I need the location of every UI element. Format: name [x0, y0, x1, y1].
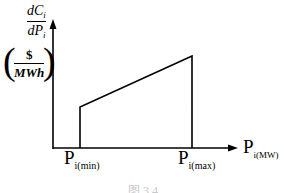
x-tick-pmax: Pi(max): [178, 147, 215, 169]
figure-caption: 图 3.4: [128, 181, 158, 193]
x-tick-pmin: Pi(min): [64, 147, 100, 169]
x-axis-arrow-icon: [228, 145, 238, 152]
incremental-cost-curve: [80, 56, 192, 148]
y-axis-arrow-icon: [50, 19, 57, 29]
x-axis-label: Pi(MW): [243, 136, 279, 158]
unit-right-paren: ): [43, 42, 56, 80]
y-axis-unit-label: $ MWh: [14, 47, 44, 80]
y-axis-derivative-label: dCi dPi: [27, 3, 46, 40]
